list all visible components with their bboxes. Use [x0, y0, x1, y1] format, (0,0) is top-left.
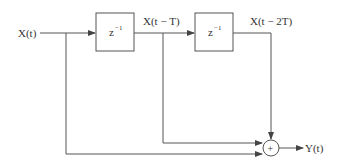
tap-2-line: [233, 33, 271, 139]
delay-block-2-exponent: −1: [214, 24, 222, 32]
delay-block-2: [195, 13, 233, 51]
diagram-svg: X(t) z −1 X(t − T) z −1 X(t − 2T) + Y(t): [0, 0, 346, 166]
delay-block-2-base: z: [208, 26, 213, 38]
input-label: X(t): [18, 27, 37, 40]
plus-icon: +: [268, 143, 274, 154]
tap-1-label: X(t − T): [143, 15, 180, 28]
delay-block-1-exponent: −1: [115, 24, 123, 32]
delay-block-1-base: z: [109, 26, 114, 38]
tap-2-label: X(t − 2T): [250, 15, 293, 28]
output-label: Y(t): [305, 142, 324, 155]
delay-block-1: [96, 13, 134, 51]
delay-line-diagram: X(t) z −1 X(t − T) z −1 X(t − 2T) + Y(t): [0, 0, 346, 166]
